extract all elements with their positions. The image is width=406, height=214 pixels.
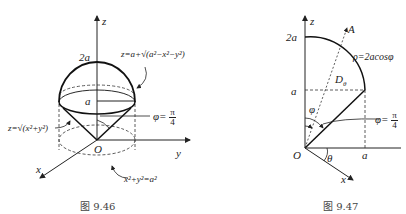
origin-label: O: [293, 150, 301, 161]
figure-caption: 图 9.47: [323, 198, 358, 213]
angle-den: 4: [170, 118, 175, 127]
region-subscript: θ: [343, 80, 346, 88]
theta-label: θ: [327, 153, 332, 164]
curve-equation: ρ=2acosφ: [353, 52, 393, 62]
angle-lhs: φ=: [153, 110, 167, 122]
angle-den: 4: [392, 121, 397, 130]
z-axis-label: z: [102, 16, 106, 27]
top-label: 2a: [79, 52, 90, 63]
mid-label: a: [291, 86, 297, 97]
right-a-label: a: [362, 150, 368, 161]
pi-over-4: π 4: [391, 111, 398, 130]
figure-9-47: z 2a A ρ=2acosφ Dθ a φ φ= π 4 O θ a x 图 …: [205, 0, 406, 214]
sphere-equation: z=a+√(a²−x²−y²): [121, 50, 185, 59]
angle-label: φ= π 4: [153, 108, 176, 127]
figure-caption: 图 9.46: [80, 198, 115, 213]
spherical-section-diagram: [205, 0, 406, 214]
pi-over-4: π 4: [169, 108, 176, 127]
origin-label: O: [94, 144, 102, 155]
ray-label: A: [348, 24, 355, 35]
mid-label: a: [85, 96, 91, 107]
circle-equation: x²+y²=a²: [124, 175, 157, 184]
x-axis: [40, 140, 97, 178]
phi-label: φ: [309, 104, 315, 115]
y-axis-label: y: [176, 148, 181, 159]
region-D: D: [335, 73, 343, 85]
cone-equation: z=√(x²+y²): [8, 124, 48, 133]
figure-9-46: z 2a z=a+√(a²−x²−y²) a φ= π 4 z=√(x²+y²)…: [0, 0, 205, 214]
x-axis-label: x: [341, 174, 346, 185]
angle-label: φ= π 4: [375, 111, 398, 130]
region-label: Dθ: [335, 74, 346, 88]
angle-lhs: φ=: [375, 113, 389, 125]
x-axis-label: x: [36, 164, 41, 175]
top-label: 2a: [286, 32, 297, 43]
z-axis-label: z: [310, 16, 314, 27]
